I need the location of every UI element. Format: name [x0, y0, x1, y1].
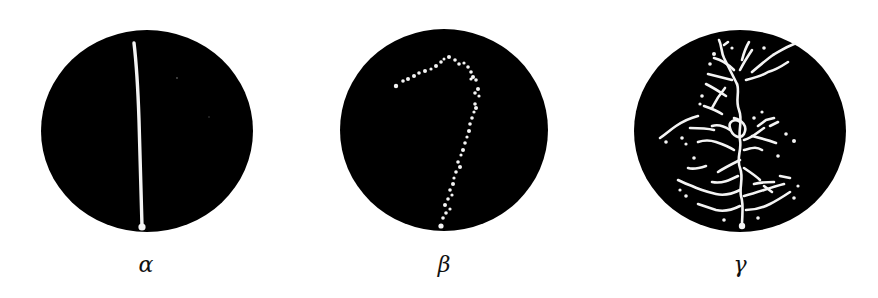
panel-beta: β — [298, 0, 590, 298]
panel-gamma: γ — [594, 0, 878, 298]
beta-label: β — [298, 252, 590, 277]
panel-alpha: α — [0, 0, 292, 298]
gamma-label: γ — [594, 252, 878, 277]
alpha-label: α — [0, 252, 292, 277]
